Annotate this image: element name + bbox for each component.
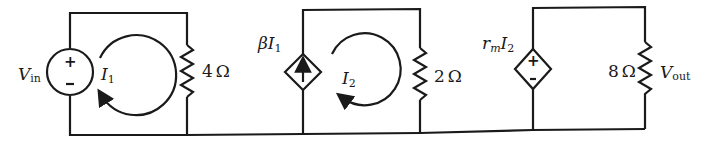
wire-middle-bottom bbox=[303, 90, 420, 134]
resistor-8ohm bbox=[639, 42, 651, 100]
right-loop: + rmI2 8Ω Vout bbox=[482, 7, 691, 130]
rm-i2-label: rmI2 bbox=[482, 33, 514, 55]
i1-label: I1 bbox=[100, 64, 115, 86]
resistor-8ohm-label: 8Ω bbox=[608, 61, 636, 81]
resistor-2ohm bbox=[414, 48, 426, 100]
i2-label: I2 bbox=[341, 68, 356, 90]
voltage-source-vin: + bbox=[47, 49, 93, 95]
plus-sign: + bbox=[527, 52, 540, 70]
plus-sign: + bbox=[64, 53, 77, 71]
resistor-4ohm-label: 4Ω bbox=[202, 61, 230, 81]
dependent-voltage-source: + bbox=[515, 49, 551, 89]
resistor-4ohm bbox=[181, 45, 193, 97]
wire-middle-top bbox=[303, 9, 420, 54]
wire-right-top bbox=[533, 7, 645, 49]
wire-ground-rail bbox=[187, 129, 645, 135]
vout-label: Vout bbox=[660, 62, 691, 83]
left-loop: + Vin 4Ω I1 bbox=[18, 13, 230, 135]
dependent-current-source bbox=[285, 54, 321, 90]
middle-loop: βI1 2Ω I2 bbox=[257, 9, 462, 134]
wire-left-top bbox=[70, 13, 187, 48]
wire-right-bottom bbox=[533, 89, 645, 130]
resistor-2ohm-label: 2Ω bbox=[434, 66, 462, 86]
beta-i1-label: βI1 bbox=[257, 33, 282, 55]
circuit-diagram: + Vin 4Ω I1 βI1 2Ω bbox=[0, 0, 701, 141]
vin-label: Vin bbox=[18, 64, 41, 85]
